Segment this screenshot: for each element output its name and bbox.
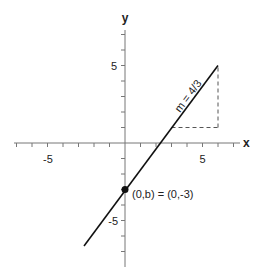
y-tick-label-pos5: 5 <box>111 60 117 72</box>
line-series <box>84 66 218 247</box>
intercept-label: (0,b) = (0,-3) <box>132 188 193 200</box>
x-axis: x -5 5 <box>14 136 250 165</box>
x-tick-label-pos5: 5 <box>199 153 205 165</box>
x-axis-label: x <box>243 136 250 150</box>
y-axis: y 5 -5 <box>108 11 128 267</box>
y-tick-label-neg5: -5 <box>108 215 118 227</box>
y-axis-label: y <box>122 11 129 25</box>
slope-label: m = 4/3 <box>172 77 204 114</box>
x-tick-label-neg5: -5 <box>43 153 53 165</box>
y-intercept-point <box>122 186 129 193</box>
slope-intercept-chart: x -5 5 y 5 -5 m = 4/3 <box>0 0 262 273</box>
